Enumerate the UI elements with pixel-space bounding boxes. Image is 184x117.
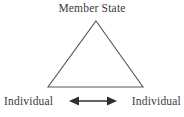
arrow-head-right	[107, 97, 117, 106]
bottom-left-label-individual: Individual	[4, 96, 53, 108]
arrow-head-left	[69, 97, 79, 106]
triangle-outline	[48, 21, 143, 87]
diagram-canvas: Member State Individual Individual	[0, 0, 184, 117]
bottom-right-label-individual: Individual	[132, 96, 181, 108]
apex-label-member-state: Member State	[0, 3, 184, 15]
double-headed-arrow-icon	[69, 97, 117, 106]
